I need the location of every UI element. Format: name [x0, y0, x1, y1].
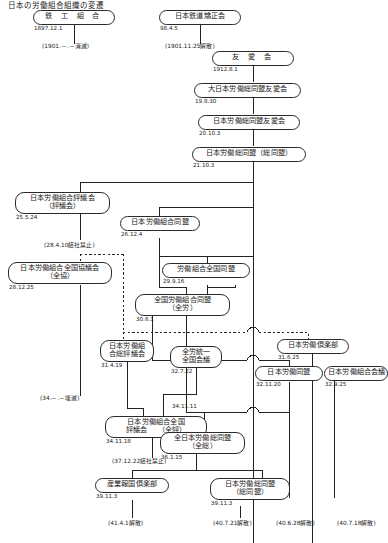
node-n10-date: 29.9.16	[163, 278, 184, 284]
node-n20-date: 39.11.3	[211, 500, 232, 506]
node-n11[interactable]: 全国労働組合同盟 （全労）	[135, 294, 230, 316]
node-n10[interactable]: 労働組合全国同盟	[162, 263, 250, 278]
node-n7-date: 25.5.24	[16, 214, 37, 220]
node-n8-label: 日本労働組合同盟	[131, 217, 189, 226]
node-n5-date: 20.10.3	[199, 130, 220, 136]
node-n18-label2: （全総）	[164, 442, 241, 450]
node-n4[interactable]: 大日本労働総同盟友愛会	[194, 83, 301, 98]
node-n15[interactable]: 日本労働同盟	[255, 366, 323, 381]
node-n16-label: 日本労働組合会議	[328, 367, 386, 376]
node-n1[interactable]: 鉄 工 組 合	[33, 10, 115, 25]
node-n14-date: 32.7.22	[171, 368, 192, 374]
node-n1-date: 1897.12.1	[34, 25, 62, 31]
node-n13-label: 日本労働倶楽部	[288, 340, 338, 349]
node-n10-label: 労働組合全国同盟	[177, 264, 235, 273]
node-n12-label2: 合総評議会	[104, 350, 150, 358]
note-t8: (40.6.28解散)	[276, 518, 315, 527]
note-t9: (40.7.18解散)	[337, 518, 376, 527]
node-n13-date: 31.6.25	[278, 354, 299, 360]
note-t5: (37.12.22結社禁止)	[112, 456, 166, 465]
node-n1-label: 鉄 工 組 合	[45, 11, 102, 20]
node-n15-label: 日本労働同盟	[267, 367, 310, 376]
edge-date-e1: 34.11.11	[172, 403, 197, 409]
union-genealogy-diagram: 日本の労働組合組織の変遷	[0, 0, 388, 543]
node-n20[interactable]: 日本労働総同盟 （総同盟）	[210, 478, 290, 500]
node-n7[interactable]: 日本労働組合評議会 （評議会）	[15, 192, 110, 214]
node-n9-label2: （全協）	[12, 272, 108, 280]
node-n9-date: 28.12.25	[9, 284, 34, 290]
node-n8[interactable]: 日本労働組合同盟	[120, 216, 200, 231]
node-n8-date: 26.12.4	[121, 231, 142, 237]
node-n5-label: 日本労働総同盟友愛会	[213, 116, 285, 125]
note-t4: (34.－.－壊滅)	[40, 393, 80, 402]
node-n5[interactable]: 日本労働総同盟友愛会	[198, 115, 300, 130]
note-t3: (28.4.10結社禁止)	[44, 240, 95, 249]
node-n11-date: 30.6.1	[136, 316, 154, 322]
node-n14[interactable]: 全労統一 全国会議	[170, 346, 222, 368]
node-n4-date: 19.8.30	[195, 98, 216, 104]
note-t1: (1901.－.－消滅)	[42, 41, 89, 50]
node-n3[interactable]: 友 愛 会	[212, 51, 294, 66]
node-n11-label2: （全労）	[139, 304, 226, 312]
note-t6: (41.4.1解散)	[108, 518, 143, 527]
node-n2-label: 日本鉄道矯正会	[175, 11, 225, 20]
node-n20-label2: （総同盟）	[214, 488, 286, 496]
node-n4-label: 大日本労働総同盟友愛会	[208, 84, 287, 93]
node-n3-date: 1912.8.1	[213, 66, 238, 72]
node-n12[interactable]: 日本労働組 合総評議会	[100, 340, 154, 362]
node-n16[interactable]: 日本労働組合会議	[324, 366, 388, 381]
node-n16-date: 32.9.25	[325, 381, 346, 387]
node-n19-date: 39.11.3	[96, 493, 117, 499]
node-n18[interactable]: 全日本労働総同盟 （全総）	[160, 432, 245, 454]
note-t7: (40.7.21解散)	[213, 518, 252, 527]
node-n6-label: 日本労働総同盟（総同盟）	[206, 148, 292, 157]
node-n15-date: 32.11.20	[256, 381, 281, 387]
node-n13[interactable]: 日本労働倶楽部	[277, 339, 349, 354]
node-n14-label2: 全国会議	[174, 356, 218, 364]
note-t2: (1901.11.25解散)	[165, 41, 215, 50]
node-n19[interactable]: 産業報国倶楽部	[95, 478, 169, 493]
node-n2[interactable]: 日本鉄道矯正会	[159, 10, 241, 25]
node-n6[interactable]: 日本労働総同盟（総同盟）	[192, 147, 306, 162]
node-n3-label: 友 愛 会	[232, 52, 274, 61]
node-n7-label2: （評議会）	[19, 202, 106, 210]
node-n9[interactable]: 日本労働組合全国協議会 （全協）	[8, 262, 112, 284]
node-n17-date: 34.11.18	[106, 438, 131, 444]
node-n6-date: 21.10.3	[193, 162, 214, 168]
node-n2-date: 98.4.5	[160, 25, 178, 31]
node-n12-date: 31.4.19	[101, 362, 122, 368]
page-title: 日本の労働組合組織の変遷	[8, 0, 104, 10]
node-n19-label: 産業報国倶楽部	[107, 479, 157, 488]
